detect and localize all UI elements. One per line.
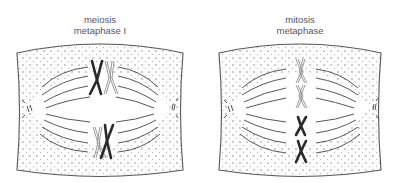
mitosis-cell [219,44,381,177]
diagram-canvas [0,0,397,183]
meiosis-cell [17,44,183,177]
